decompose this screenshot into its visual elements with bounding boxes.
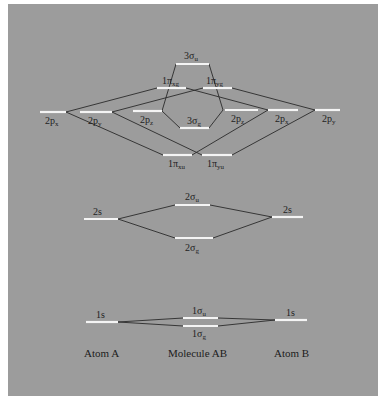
label-3sigma-g: 3σg <box>187 115 201 128</box>
caption-molecule-ab: Molecule AB <box>168 347 227 359</box>
label-a-2px: 2px <box>45 115 59 128</box>
label-a-2pz: 2pz <box>140 114 153 127</box>
label-2sigma-u: 2σu <box>185 191 199 204</box>
mo-diagram: 3σu 1πxg 1πyg 2px 2py 2pz 3σg 2pz 2px 2p… <box>0 0 385 403</box>
label-2sigma-g: 2σg <box>185 242 199 255</box>
label-1pi-xg: 1πxg <box>162 75 180 88</box>
label-a-2py: 2py <box>88 115 102 128</box>
label-b-1s: 1s <box>286 307 295 318</box>
label-3sigma-u: 3σu <box>184 50 198 63</box>
label-b-2py: 2py <box>322 113 336 126</box>
label-b-2s: 2s <box>283 204 292 215</box>
label-1sigma-u: 1σu <box>192 305 206 318</box>
label-1pi-xu: 1πxu <box>168 158 186 171</box>
level-labels: 3σu 1πxg 1πyg 2px 2py 2pz 3σg 2pz 2px 2p… <box>45 50 336 341</box>
label-a-1s: 1s <box>96 309 105 320</box>
label-b-2pz: 2pz <box>231 113 244 126</box>
caption-atom-b: Atom B <box>274 347 309 359</box>
label-1pi-yg: 1πyg <box>206 75 224 88</box>
captions: Atom A Molecule AB Atom B <box>84 347 309 359</box>
label-a-2s: 2s <box>93 206 102 217</box>
label-b-2px: 2px <box>275 113 289 126</box>
caption-atom-a: Atom A <box>84 347 119 359</box>
label-1pi-yu: 1πyu <box>207 158 225 171</box>
label-1sigma-g: 1σg <box>192 328 206 341</box>
